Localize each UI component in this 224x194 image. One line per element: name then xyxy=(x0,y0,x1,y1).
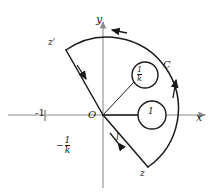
contour-endpoint-label-z-prime: z' xyxy=(48,38,55,47)
contour-ray-upper xyxy=(66,50,103,115)
contour-arc-label: C xyxy=(163,60,171,70)
pole-fraction: 1k xyxy=(137,66,142,83)
x-axis-label: x xyxy=(196,112,202,123)
fraction-numerator: 1 xyxy=(65,136,71,145)
pole-circle-one-over-k xyxy=(132,62,158,88)
axes-group xyxy=(8,22,205,188)
origin-label: O xyxy=(88,110,96,120)
fraction-one-over-k: 1k xyxy=(65,136,71,155)
contour-arc-C xyxy=(66,37,178,167)
contour-figure-svg xyxy=(0,0,224,194)
contour-path-group xyxy=(66,37,178,167)
minus-sign: − xyxy=(56,141,64,150)
pole-fraction-denominator: k xyxy=(137,74,142,83)
contour-ray-label-l: l xyxy=(116,133,119,142)
pole-label-one-over-k: 1k xyxy=(137,66,142,83)
x-tick-label-minus-one: -1 xyxy=(35,108,45,118)
pole-label-one: 1 xyxy=(148,107,154,116)
annotation-negative-one-over-k: −1k xyxy=(56,136,70,155)
y-axis-label: y xyxy=(96,14,102,25)
connector-to-pole-one-over-k xyxy=(103,82,134,115)
arrow-arc-top xyxy=(112,30,127,33)
fraction-denominator: k xyxy=(65,145,71,155)
pole-fraction-numerator: 1 xyxy=(137,66,142,74)
contour-startpoint-label-z: z xyxy=(140,169,145,178)
